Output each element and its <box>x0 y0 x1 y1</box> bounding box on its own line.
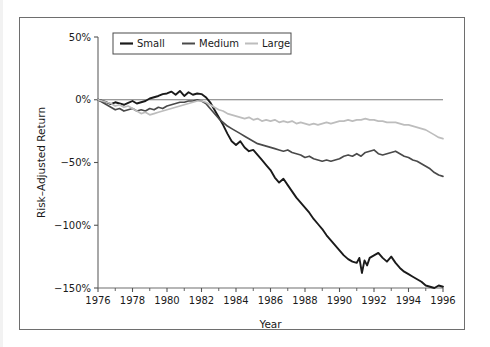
y-tick-label: −150% <box>54 283 91 294</box>
x-tick-label: 1988 <box>292 295 317 306</box>
legend-label-medium: Medium <box>199 38 239 49</box>
x-tick-label: 1992 <box>361 295 386 306</box>
y-axis-title: Risk–Adjusted Return <box>35 107 47 218</box>
y-tick-label: −100% <box>54 220 91 231</box>
x-axis-title: Year <box>258 318 282 330</box>
x-tick-label: 1978 <box>120 295 145 306</box>
series-line-large <box>98 100 443 139</box>
series-line-medium <box>98 100 443 177</box>
x-tick-label: 1984 <box>223 295 248 306</box>
y-tick-label: 0% <box>75 94 91 105</box>
x-tick-label: 1986 <box>258 295 283 306</box>
legend-label-small: Small <box>137 38 165 49</box>
x-tick-label: 1994 <box>396 295 421 306</box>
x-tick-label: 1982 <box>189 295 214 306</box>
y-tick-label: 50% <box>69 32 91 43</box>
y-tick-label: −50% <box>60 157 91 168</box>
risk-adjusted-return-line-chart: 50%0%−50%−100%−150%197619781980198219841… <box>0 0 490 347</box>
x-tick-label: 1976 <box>85 295 110 306</box>
legend-label-large: Large <box>262 38 290 49</box>
x-tick-label: 1980 <box>154 295 179 306</box>
x-tick-label: 1990 <box>327 295 352 306</box>
x-tick-label: 1996 <box>430 295 455 306</box>
